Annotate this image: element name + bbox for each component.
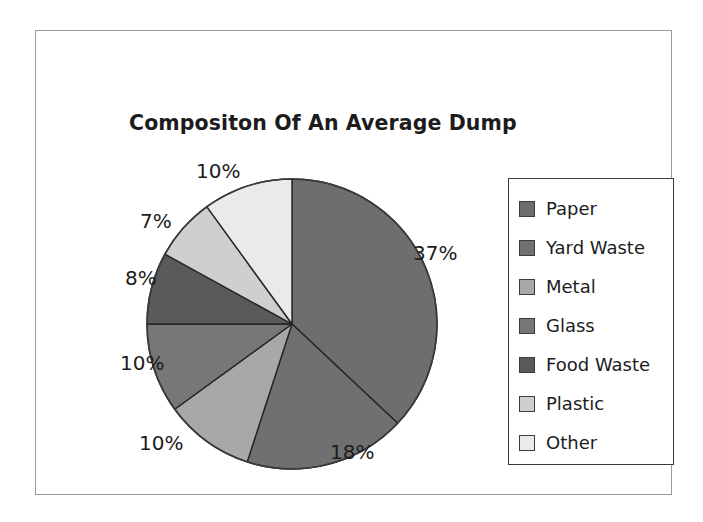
slice-label-food-waste: 8%	[125, 266, 157, 290]
legend-item-label: Paper	[546, 200, 597, 218]
slice-label-metal: 10%	[139, 431, 183, 455]
legend-item[interactable]: Glass	[519, 306, 673, 345]
legend-swatch-icon	[519, 279, 535, 295]
legend-swatch-icon	[519, 240, 535, 256]
legend-swatch-icon	[519, 357, 535, 373]
legend-swatch-icon	[519, 318, 535, 334]
legend-item-label: Plastic	[546, 395, 604, 413]
legend: PaperYard WasteMetalGlassFood WastePlast…	[508, 178, 674, 465]
legend-item[interactable]: Paper	[519, 189, 673, 228]
legend-item-label: Food Waste	[546, 356, 650, 374]
legend-item[interactable]: Other	[519, 423, 673, 462]
slice-label-glass: 10%	[120, 351, 164, 375]
slice-label-paper: 37%	[413, 241, 457, 265]
slice-label-plastic: 7%	[140, 209, 172, 233]
legend-item-label: Glass	[546, 317, 595, 335]
slice-label-yard-waste: 18%	[330, 440, 374, 464]
legend-item-label: Yard Waste	[546, 239, 645, 257]
legend-item[interactable]: Plastic	[519, 384, 673, 423]
legend-item[interactable]: Yard Waste	[519, 228, 673, 267]
pie-chart	[144, 176, 440, 472]
slice-label-other: 10%	[196, 159, 240, 183]
legend-item-label: Other	[546, 434, 597, 452]
pie-chart-svg	[144, 176, 440, 472]
legend-item[interactable]: Metal	[519, 267, 673, 306]
page-title: Compositon Of An Average Dump	[129, 111, 517, 135]
legend-swatch-icon	[519, 201, 535, 217]
pie-slice-group	[147, 179, 437, 469]
legend-swatch-icon	[519, 396, 535, 412]
legend-swatch-icon	[519, 435, 535, 451]
legend-item-label: Metal	[546, 278, 596, 296]
legend-item[interactable]: Food Waste	[519, 345, 673, 384]
chart-frame: Compositon Of An Average Dump 37% 18% 10…	[35, 30, 672, 495]
